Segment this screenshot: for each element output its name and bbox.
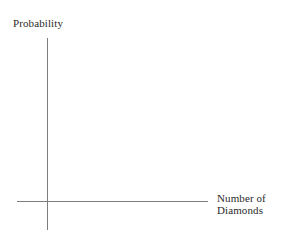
x-axis-line (17, 201, 208, 202)
x-axis-label: Number of Diamonds (217, 192, 266, 216)
y-axis-line (47, 38, 48, 230)
y-axis-label: Probability (13, 17, 63, 29)
chart-figure: Probability Number of Diamonds (0, 0, 284, 237)
